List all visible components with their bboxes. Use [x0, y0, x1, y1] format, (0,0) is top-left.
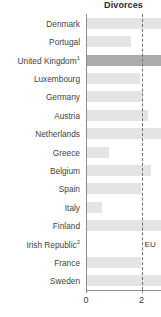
plot-area: EU 02 [86, 14, 161, 290]
x-tick [86, 290, 87, 293]
bar-row [87, 257, 141, 268]
category-label-belgium: Belgium [0, 166, 80, 176]
bar-luxembourg [87, 73, 140, 84]
bar-row [87, 55, 161, 66]
category-label-greece: Greece [0, 148, 80, 158]
category-label-netherlands: Netherlands [0, 129, 80, 139]
bar-austria [87, 110, 148, 121]
eu-average-label: EU [145, 240, 156, 249]
bar-row [87, 73, 140, 84]
category-label-portugal: Portugal [0, 37, 80, 47]
category-label-spain: Spain [0, 184, 80, 194]
x-tick [142, 290, 143, 293]
x-tick-label: 2 [139, 295, 144, 306]
bar-greece [87, 147, 109, 158]
bar-netherlands [87, 128, 161, 139]
bar-sweden [87, 275, 161, 286]
category-label-irish-republic: Irish Republic2 [0, 240, 80, 250]
bar-row [87, 183, 141, 194]
bar-united-kingdom [87, 55, 161, 66]
bar-finland [87, 220, 161, 231]
bar-denmark [87, 18, 161, 29]
bar-row [87, 220, 161, 231]
bar-row [87, 202, 102, 213]
category-label-luxembourg: Luxembourg [0, 74, 80, 84]
category-label-sweden: Sweden [0, 276, 80, 286]
footnote-marker: 2 [77, 239, 80, 245]
chart-title: Divorces [86, 0, 161, 11]
category-label-denmark: Denmark [0, 19, 80, 29]
bar-row [87, 275, 161, 286]
bar-row [87, 128, 161, 139]
eu-average-line [142, 14, 143, 290]
bar-row [87, 91, 143, 102]
category-label-united-kingdom: United Kingdom1 [0, 56, 80, 66]
bar-germany [87, 91, 143, 102]
divorces-bar-chart: Divorces EU 02 DenmarkPortugalUnited Kin… [0, 0, 161, 317]
bar-italy [87, 202, 102, 213]
category-label-france: France [0, 258, 80, 268]
x-axis-line [86, 290, 161, 291]
x-tick-label: 0 [83, 295, 88, 306]
bar-france [87, 257, 141, 268]
bar-portugal [87, 36, 131, 47]
category-label-italy: Italy [0, 203, 80, 213]
category-label-austria: Austria [0, 111, 80, 121]
category-label-finland: Finland [0, 221, 80, 231]
category-label-germany: Germany [0, 92, 80, 102]
bar-row [87, 18, 161, 29]
footnote-marker: 1 [77, 55, 80, 61]
bar-row [87, 36, 131, 47]
bar-row [87, 147, 109, 158]
bar-spain [87, 183, 141, 194]
bar-row [87, 110, 148, 121]
